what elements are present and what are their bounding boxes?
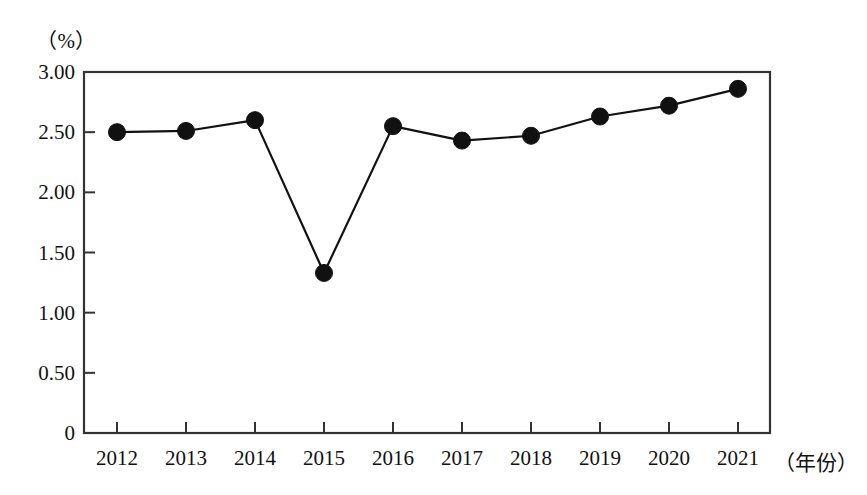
data-point-marker [385,118,402,135]
x-axis-tick-label: 2014 [234,446,276,471]
data-point-marker [109,124,126,141]
x-axis-tick-label: 2021 [717,446,759,471]
y-axis-tick-label: 1.50 [38,240,75,265]
data-point-marker [316,264,333,281]
x-axis-tick-label: 2015 [303,446,345,471]
x-axis-tick-label: 2018 [510,446,552,471]
data-point-marker [454,132,471,149]
y-axis-tick-label: 3.00 [38,60,75,85]
x-axis-title: （年份） [774,446,858,476]
y-axis-tick-label: 2.00 [38,180,75,205]
x-axis-tick-label: 2013 [165,446,207,471]
x-axis-tick-label: 2012 [96,446,138,471]
line-chart: （%） 3.002.502.001.501.000.500 2012201320… [0,0,867,495]
y-axis-tick-label: 0.50 [38,360,75,385]
data-point-marker [730,80,747,97]
x-axis-tick-label: 2017 [441,446,483,471]
data-point-marker [592,108,609,125]
data-point-marker [178,122,195,139]
x-axis-tick-label: 2020 [648,446,690,471]
y-axis-tick-label: 2.50 [38,120,75,145]
y-axis-tick-label: 0 [65,421,76,446]
y-axis-tick-label: 1.00 [38,300,75,325]
data-point-marker [661,97,678,114]
chart-plot-area [0,0,867,495]
x-axis-tick-label: 2019 [579,446,621,471]
data-point-marker [523,127,540,144]
x-axis-tick-label: 2016 [372,446,414,471]
data-point-marker [247,112,264,129]
